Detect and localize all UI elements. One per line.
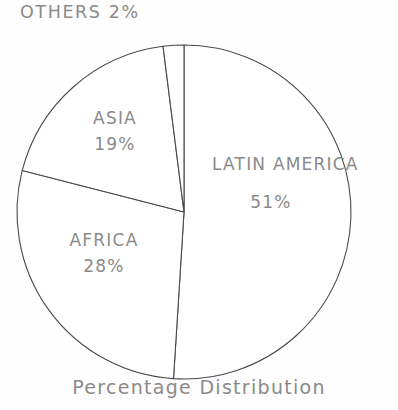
slice-label-asia-name: ASIA [93, 108, 137, 128]
slice-label-africa: AFRICA 28% [42, 228, 166, 279]
slice-label-africa-name: AFRICA [70, 230, 139, 250]
pie-chart-figure: OTHERS 2% ASIA 19% AFRICA 28% LATIN AMER… [0, 0, 398, 410]
slice-label-africa-value: 28% [83, 256, 124, 276]
slice-label-asia: ASIA 19% [63, 106, 167, 157]
slice-label-asia-value: 19% [94, 134, 135, 154]
slice-label-others: OTHERS 2% [20, 2, 140, 23]
slice-label-latin-america-value: 51% [212, 190, 330, 216]
slice-label-latin-america-name: LATIN AMERICA [212, 154, 359, 174]
chart-caption: Percentage Distribution [0, 376, 398, 398]
slice-label-latin-america: LATIN AMERICA 51% [212, 152, 342, 215]
